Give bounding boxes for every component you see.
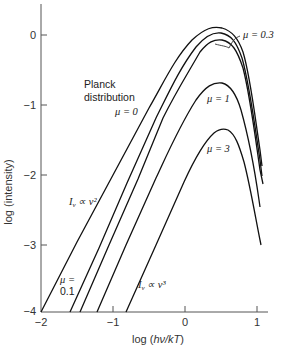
y-tick-label: −2 [23, 169, 36, 181]
mu-0.3-label: μ = 0.3 [242, 29, 274, 40]
mu-1-label: μ = 1 [206, 93, 230, 104]
nu-cubed-label: Iν ∝ ν³ [137, 279, 167, 292]
x-tick-label: −2 [35, 316, 48, 328]
x-tick-label: 0 [182, 316, 188, 328]
nu-squared-label: Iν ∝ ν² [68, 196, 98, 209]
y-tick-label: −1 [23, 99, 36, 111]
mu-3-label: μ = 3 [206, 143, 230, 154]
planck-label-line1: Planck [84, 78, 116, 90]
mu-0.1-label-line2: 0.1 [60, 285, 75, 297]
mu-0.1-label-line1: μ = [59, 274, 75, 285]
y-tick-label: 0 [30, 29, 36, 41]
x-ticks: −2 −1 0 1 [35, 306, 260, 328]
x-tick-label: −1 [107, 316, 120, 328]
curve-mu-0 [41, 27, 262, 312]
chart-canvas: 0 −1 −2 −3 −4 −2 −1 0 1 log (intensity) … [0, 0, 290, 348]
planck-label-line2: distribution [84, 91, 135, 103]
x-tick-label: 1 [254, 316, 260, 328]
curves [41, 27, 263, 312]
y-ticks: 0 −1 −2 −3 −4 [23, 29, 47, 317]
y-axis-title: log (intensity) [2, 159, 14, 224]
y-tick-label: −3 [23, 239, 36, 251]
x-axis-title: log (hν/kT) [132, 333, 184, 345]
mu-0-label: μ = 0 [114, 106, 139, 117]
